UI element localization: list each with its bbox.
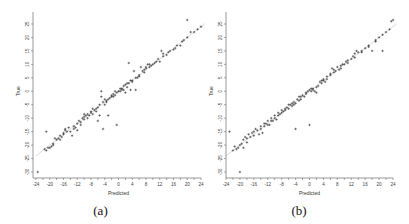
data-point: [270, 117, 272, 119]
y-tick-label: -30: [218, 168, 223, 175]
data-point: [37, 171, 39, 173]
data-point: [126, 86, 128, 88]
x-tick-label: 24: [198, 182, 204, 187]
y-tick-label: -20: [218, 141, 223, 148]
y-tick-label: 10: [25, 61, 30, 67]
y-tick-label: -15: [25, 128, 30, 135]
y-tick-label: 5: [25, 76, 30, 79]
data-point: [239, 171, 241, 173]
data-point: [253, 130, 255, 132]
data-point: [189, 31, 191, 33]
data-point: [160, 50, 162, 52]
x-tick-label: 24: [390, 182, 396, 187]
y-tick-label: 0: [25, 90, 30, 93]
data-point: [280, 109, 282, 111]
data-point: [247, 133, 249, 135]
data-point: [104, 98, 106, 100]
data-point: [54, 137, 56, 139]
data-point: [324, 81, 326, 83]
data-point: [49, 147, 51, 149]
data-point: [331, 67, 333, 69]
scatter-plot-b: -30-25-20-15-10-50510152025-24-20-16-12-…: [205, 0, 409, 224]
x-tick-label: 16: [363, 182, 369, 187]
panel-caption-a: (a): [0, 203, 203, 219]
y-tick-label: -20: [25, 141, 30, 148]
x-tick-label: -8: [280, 182, 285, 187]
data-point: [73, 128, 75, 130]
data-point: [254, 128, 256, 130]
x-tick-label: -20: [46, 182, 53, 187]
data-point: [79, 124, 81, 126]
data-point: [140, 66, 142, 68]
x-tick-label: 4: [322, 182, 325, 187]
data-point: [134, 89, 136, 91]
data-point: [83, 113, 85, 115]
data-point: [371, 50, 373, 52]
y-tick-label: 20: [25, 34, 30, 40]
data-point: [261, 132, 263, 134]
data-point: [336, 66, 338, 68]
data-point: [251, 132, 253, 134]
data-point: [45, 149, 47, 151]
x-tick-label: -24: [33, 182, 40, 187]
data-point: [228, 130, 230, 132]
y-tick-label: -25: [218, 155, 223, 162]
data-point: [45, 130, 47, 132]
x-tick-label: -20: [237, 182, 244, 187]
data-point: [263, 122, 265, 124]
data-point: [116, 124, 118, 126]
y-tick-label: 25: [25, 21, 30, 27]
data-point: [129, 89, 131, 91]
data-point: [333, 69, 335, 71]
data-point: [100, 95, 102, 97]
data-point: [97, 120, 99, 122]
data-point: [392, 19, 394, 21]
x-tick-label: -4: [103, 182, 108, 187]
data-point: [179, 44, 181, 46]
x-tick-label: 4: [131, 182, 134, 187]
x-tick-label: -16: [60, 182, 67, 187]
y-tick-label: 20: [218, 34, 223, 40]
scatter-plot-a: -30-25-20-15-10-50510152025-24-20-16-12-…: [0, 0, 205, 224]
x-tick-label: -8: [89, 182, 94, 187]
data-point: [287, 104, 289, 106]
data-point: [315, 91, 317, 93]
data-point: [114, 90, 116, 92]
data-point: [145, 66, 147, 68]
x-tick-label: 12: [349, 182, 355, 187]
x-tick-label: 20: [377, 182, 383, 187]
data-point: [98, 114, 100, 116]
data-point: [233, 145, 235, 147]
x-tick-label: -12: [74, 182, 81, 187]
data-point: [122, 89, 124, 91]
data-point: [71, 134, 73, 136]
x-axis-label: Predicted: [108, 190, 129, 196]
data-point: [95, 110, 97, 112]
data-point: [294, 128, 296, 130]
reference-line: [226, 24, 396, 156]
data-point: [64, 128, 66, 130]
data-point: [124, 91, 126, 93]
y-tick-label: -5: [25, 102, 30, 107]
x-tick-label: -16: [251, 182, 258, 187]
x-axis-label: Predicted: [299, 190, 320, 196]
data-point: [159, 60, 161, 62]
data-point: [67, 126, 69, 128]
scatter-panel-a: -30-25-20-15-10-50510152025-24-20-16-12-…: [0, 0, 205, 224]
x-tick-label: 8: [336, 182, 339, 187]
data-point: [92, 108, 94, 110]
data-point: [267, 120, 269, 122]
x-tick-label: 8: [145, 182, 148, 187]
y-axis-label: True: [208, 86, 214, 96]
y-tick-label: -30: [25, 168, 30, 175]
data-point: [104, 104, 106, 106]
y-tick-label: -10: [218, 114, 223, 121]
data-point: [277, 112, 279, 114]
data-point: [246, 141, 248, 143]
y-tick-label: 15: [218, 48, 223, 54]
y-tick-label: -25: [25, 155, 30, 162]
x-tick-label: -4: [294, 182, 299, 187]
data-point: [260, 125, 262, 127]
y-tick-label: 15: [25, 48, 30, 54]
y-tick-label: 5: [218, 76, 223, 79]
